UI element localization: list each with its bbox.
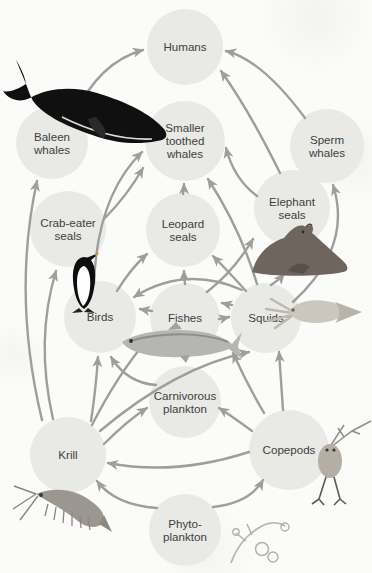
node-leopard-seals: Leopardseals <box>146 193 220 267</box>
krill-illustration <box>13 486 112 532</box>
edge-krill-to-birds <box>91 357 98 421</box>
edge-copepods-to-fishes <box>233 353 264 413</box>
humans-label: Humans <box>163 40 206 53</box>
node-humans: Humans <box>147 9 223 85</box>
edge-birds-to-leopard-seals <box>117 254 147 291</box>
edge-elephant-seals-to-smaller-toothed-whales <box>226 148 257 196</box>
node-krill: Krill <box>30 417 106 493</box>
baleen-whales-label: Baleenwhales <box>33 130 70 156</box>
food-web-svg: HumansBaleenwhalesSmallertoothedwhalesSp… <box>0 0 372 573</box>
node-carnivorous-plankton: Carnivorousplankton <box>149 366 221 438</box>
edge-copepods-to-squids <box>279 352 283 410</box>
edge-krill-to-carnivorous-plankton <box>104 408 147 444</box>
edge-squids-to-elephant-seals <box>271 274 284 285</box>
smaller-toothed-whales-label: Smallertoothedwhales <box>165 121 204 160</box>
edge-phytoplankton-to-copepods <box>213 480 263 507</box>
edge-leopard-seals-to-smaller-toothed-whales <box>183 184 184 194</box>
edge-copepods-to-carnivorous-plankton <box>219 408 252 431</box>
krill-label: Krill <box>58 448 77 461</box>
copepods-label: Copepods <box>263 443 316 456</box>
edge-phytoplankton-to-krill <box>97 481 157 508</box>
phytoplankton-illustration <box>231 523 289 563</box>
phytoplankton-label: Phyto-plankton <box>163 517 207 543</box>
edge-sperm-whales-to-humans <box>226 51 305 118</box>
edge-copepods-to-krill <box>108 452 249 468</box>
edge-fishes-to-squids <box>219 317 229 319</box>
node-copepods: Copepods <box>249 410 329 490</box>
edge-fishes-to-birds <box>140 309 152 311</box>
node-phytoplankton: Phyto-plankton <box>149 494 221 566</box>
sperm-whales-label: Spermwhales <box>308 133 345 159</box>
fishes-label: Fishes <box>168 311 202 324</box>
edge-krill-to-crab-eater-seals <box>45 271 56 419</box>
food-web-diagram: HumansBaleenwhalesSmallertoothedwhalesSp… <box>0 0 372 573</box>
edge-fishes-to-leopard-seals <box>184 271 185 284</box>
edge-squids-to-fishes <box>222 303 232 305</box>
